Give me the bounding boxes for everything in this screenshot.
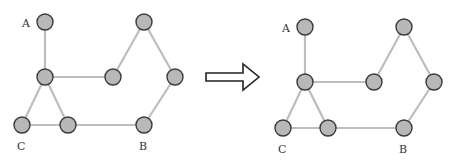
left-node-T xyxy=(136,14,152,30)
right-edge-T-R xyxy=(404,27,434,82)
left-edge-T-R xyxy=(144,22,175,77)
right-edge-N-T xyxy=(374,27,404,82)
right-arrow-icon xyxy=(206,64,259,90)
left-label-B: B xyxy=(139,140,147,153)
left-node-N xyxy=(105,69,121,85)
left-node-B xyxy=(136,117,152,133)
left-graph: ACB xyxy=(14,14,183,153)
right-label-B: B xyxy=(399,143,407,156)
right-label-A: A xyxy=(281,22,291,35)
left-edge-N-T xyxy=(113,22,144,77)
right-node-A xyxy=(297,19,313,35)
left-node-A xyxy=(37,14,53,30)
left-label-A: A xyxy=(21,17,31,30)
left-node-R xyxy=(167,69,183,85)
graph-transformation-diagram: ACB ACB xyxy=(0,0,454,165)
right-node-B xyxy=(396,120,412,136)
left-label-C: C xyxy=(17,140,25,153)
right-graph: ACB xyxy=(275,19,442,156)
right-label-C: C xyxy=(278,143,286,156)
left-node-M xyxy=(37,69,53,85)
right-node-M xyxy=(297,74,313,90)
right-node-D xyxy=(320,120,336,136)
right-node-C xyxy=(275,120,291,136)
right-node-N xyxy=(366,74,382,90)
right-node-T xyxy=(396,19,412,35)
right-node-R xyxy=(426,74,442,90)
left-node-C xyxy=(14,117,30,133)
left-node-D xyxy=(60,117,76,133)
